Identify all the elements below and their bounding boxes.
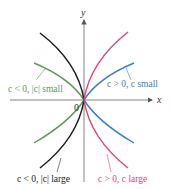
- leader-neg-large: [57, 158, 61, 172]
- leader-neg-small: [36, 69, 45, 80]
- diagram-canvas: y x 0 c < 0, |c| small c > 0, c small c …: [0, 0, 172, 189]
- leader-pos-large: [107, 154, 111, 172]
- label-pos-small: c > 0, c small: [107, 79, 158, 89]
- label-pos-large: c > 0, c large: [98, 174, 147, 184]
- origin-label: 0: [74, 102, 79, 113]
- y-axis-label: y: [80, 7, 86, 18]
- x-axis-label: x: [156, 94, 162, 105]
- label-neg-large: c < 0, |c| large: [17, 174, 70, 184]
- label-neg-small: c < 0, |c| small: [8, 84, 63, 94]
- curve-neg-large: [40, 33, 84, 168]
